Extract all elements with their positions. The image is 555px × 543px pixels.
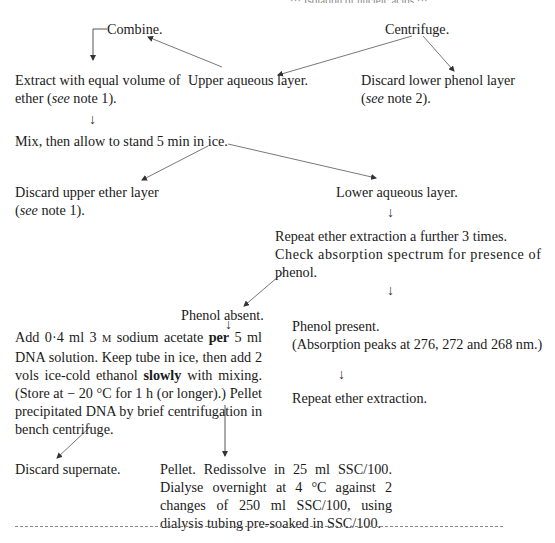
combine-to-extract-connector bbox=[93, 29, 107, 60]
combine-label: Combine. bbox=[107, 20, 163, 38]
pellet-step: Pellet. Redissolve in 25 ml SSC/100. Dia… bbox=[160, 460, 392, 532]
see-reference: see bbox=[20, 202, 38, 218]
add-acetate-step: Add 0·4 ml 3 M sodium acetate per 5 ml D… bbox=[15, 328, 262, 438]
repeat-check-line-1: Repeat ether extraction a further 3 time… bbox=[275, 227, 541, 245]
extract-step: Extract with equal volume of ether (see … bbox=[15, 71, 180, 107]
down-arrow-icon: ↓ bbox=[387, 206, 394, 220]
phenol-absent-label: Phenol absent. bbox=[181, 306, 264, 324]
mix-to-lower-aqueous-arrow bbox=[228, 144, 376, 178]
phenol-present-step: Phenol present. (Absorption peaks at 276… bbox=[292, 317, 542, 353]
discard-phenol-line-2: (see note 2). bbox=[361, 89, 515, 107]
slowly-emphasis: slowly bbox=[144, 367, 182, 383]
per-emphasis: per bbox=[209, 329, 230, 345]
mix-to-discard-ether-arrow bbox=[142, 146, 208, 180]
discard-ether-line-1: Discard upper ether layer bbox=[15, 183, 159, 201]
centrifuge-to-discard-phenol-arrow bbox=[423, 36, 454, 71]
discard-phenol-line-2-post: note 2). bbox=[384, 90, 431, 106]
down-arrow-icon: ↓ bbox=[338, 368, 345, 382]
extract-line-1: Extract with equal volume of bbox=[15, 71, 180, 89]
repeat-and-check-step: Repeat ether extraction a further 3 time… bbox=[275, 227, 541, 281]
discard-ether-line-2-post: note 1). bbox=[38, 202, 85, 218]
mix-step: Mix, then allow to stand 5 min in ice. bbox=[15, 132, 228, 150]
upper-aqueous-layer-label: Upper aqueous layer. bbox=[188, 71, 308, 89]
discard-phenol-line-1: Discard lower phenol layer bbox=[361, 71, 515, 89]
extract-line-2-pre: ether ( bbox=[15, 90, 52, 106]
repeat-check-line-3: phenol. bbox=[275, 263, 541, 281]
section-divider bbox=[15, 526, 503, 527]
repeat-ether-extraction-step: Repeat ether extraction. bbox=[292, 389, 427, 407]
phenol-present-line-1: Phenol present. bbox=[292, 317, 542, 335]
see-reference: see bbox=[366, 90, 384, 106]
acetate-text-1: Add 0·4 ml 3 bbox=[15, 329, 102, 345]
acetate-text-2: sodium acetate bbox=[111, 329, 208, 345]
extract-line-2: ether (see note 1). bbox=[15, 89, 180, 107]
see-reference: see bbox=[52, 90, 70, 106]
lower-aqueous-layer-label: Lower aqueous layer. bbox=[336, 183, 458, 201]
discard-supernate-step: Discard supernate. bbox=[15, 460, 121, 478]
centrifuge-to-upper-aqueous-arrow bbox=[278, 36, 412, 75]
repeat-check-line-2: Check absorption spectrum for presence o… bbox=[275, 245, 541, 263]
phenol-present-line-2: (Absorption peaks at 276, 272 and 268 nm… bbox=[292, 335, 542, 353]
extract-line-2-post: note 1). bbox=[70, 90, 117, 106]
discard-phenol-step: Discard lower phenol layer (see note 2). bbox=[361, 71, 515, 107]
centrifuge-label: Centrifuge. bbox=[385, 20, 449, 38]
discard-ether-line-2: (see note 1). bbox=[15, 201, 159, 219]
running-header-fragment: ··· Isolation of nucleic acids ··· bbox=[290, 0, 510, 3]
down-arrow-icon: ↓ bbox=[89, 113, 96, 127]
upper-aqueous-to-combine-arrow bbox=[148, 37, 222, 67]
down-arrow-icon: ↓ bbox=[387, 284, 394, 298]
molar-unit: M bbox=[102, 333, 111, 344]
discard-ether-step: Discard upper ether layer (see note 1). bbox=[15, 183, 159, 219]
